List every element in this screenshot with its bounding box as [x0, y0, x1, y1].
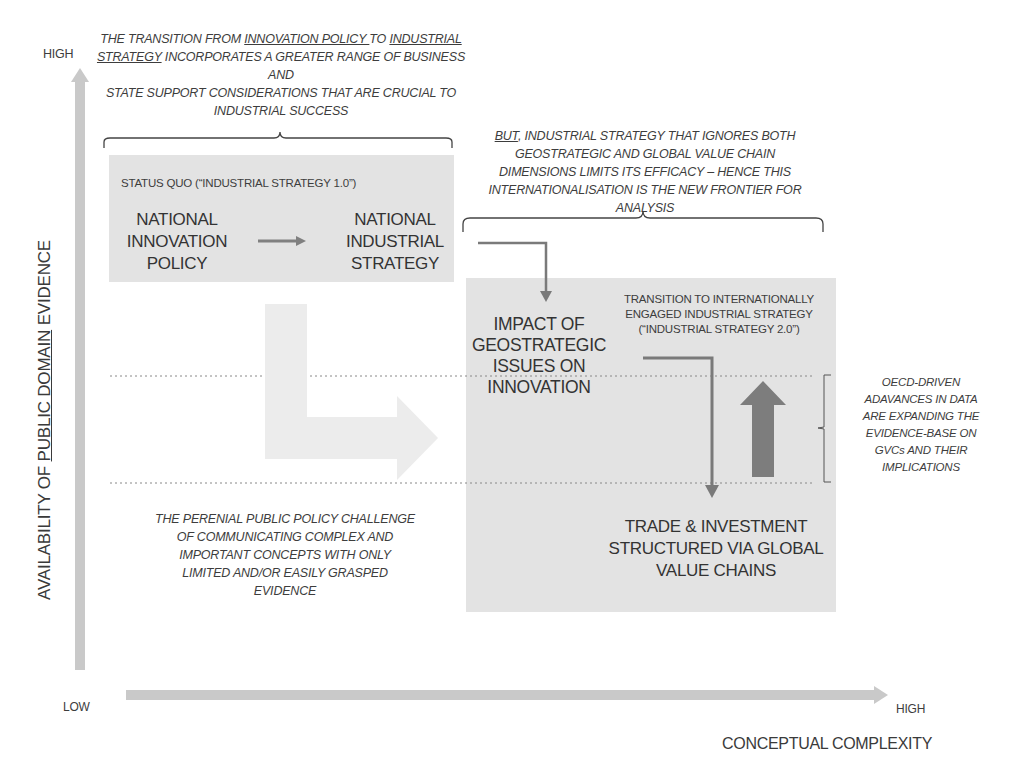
impact-geostrategic-issues: IMPACT OF GEOSTRATEGIC ISSUES ON INNOVAT…	[460, 314, 618, 398]
status-quo-title: STATUS QUO (“INDUSTRIAL STRATEGY 1.0”)	[121, 176, 356, 191]
x-axis-arrow-head	[874, 686, 888, 704]
x-axis-title: CONCEPTUAL COMPLEXITY	[722, 735, 932, 753]
oecd-note: OECD-DRIVEN ADAVANCES IN DATA ARE EXPAND…	[846, 374, 996, 476]
x-axis-high-label: HIGH	[896, 702, 925, 717]
national-innovation-policy: NATIONAL INNOVATION POLICY	[112, 209, 242, 275]
x-axis-arrow-shaft	[126, 690, 876, 700]
top-brace	[104, 132, 452, 148]
l-shaped-arrow-icon	[265, 304, 438, 480]
strategy2-title: TRANSITION TO INTERNATIONALLY ENGAGED IN…	[604, 292, 834, 337]
y-axis-title: AVAILABILITY OF PUBLIC DOMAIN EVIDENCE	[35, 170, 55, 670]
national-industrial-strategy: NATIONAL INDUSTRIAL STRATEGY	[330, 209, 460, 275]
y-axis-high-label: HIGH	[43, 47, 73, 62]
trade-investment-gvc: TRADE & INVESTMENT STRUCTURED VIA GLOBAL…	[606, 516, 826, 582]
y-axis-arrow-head	[71, 68, 89, 82]
top-note: THE TRANSITION FROM INNOVATION POLICY TO…	[96, 30, 466, 120]
challenge-note: THE PERENIAL PUBLIC POLICY CHALLENGE OF …	[120, 510, 450, 600]
y-axis-arrow-shaft	[75, 80, 85, 670]
right-note: BUT, INDUSTRIAL STRATEGY THAT IGNORES BO…	[470, 127, 820, 217]
x-axis-low-label: LOW	[63, 700, 90, 715]
